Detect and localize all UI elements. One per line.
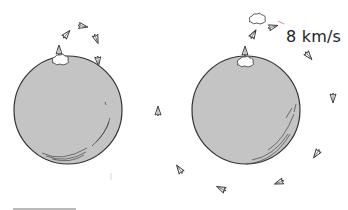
rocket-icon [215, 184, 227, 194]
right-planet [192, 56, 300, 164]
velocity-label: 8 km/s [286, 27, 341, 46]
rocket-icon [61, 28, 72, 40]
rocket-icon [267, 23, 278, 31]
rocket-icon [248, 28, 258, 40]
left-panel [14, 22, 122, 164]
rocket-icon [242, 46, 248, 56]
rocket-icon [174, 163, 185, 175]
rocket-icon [303, 50, 314, 62]
rocket-icon [56, 45, 62, 55]
rocket-icon [155, 106, 161, 116]
motion-line [278, 21, 284, 24]
rocket-icon [311, 148, 322, 160]
rocket-icon [330, 93, 336, 103]
rocket-icon [273, 178, 284, 187]
left-planet [14, 56, 122, 164]
rocket-icon [78, 22, 89, 30]
launch-smoke-icon [249, 13, 265, 24]
launch-smoke-icon [52, 54, 68, 65]
rocket-icon [92, 33, 101, 44]
